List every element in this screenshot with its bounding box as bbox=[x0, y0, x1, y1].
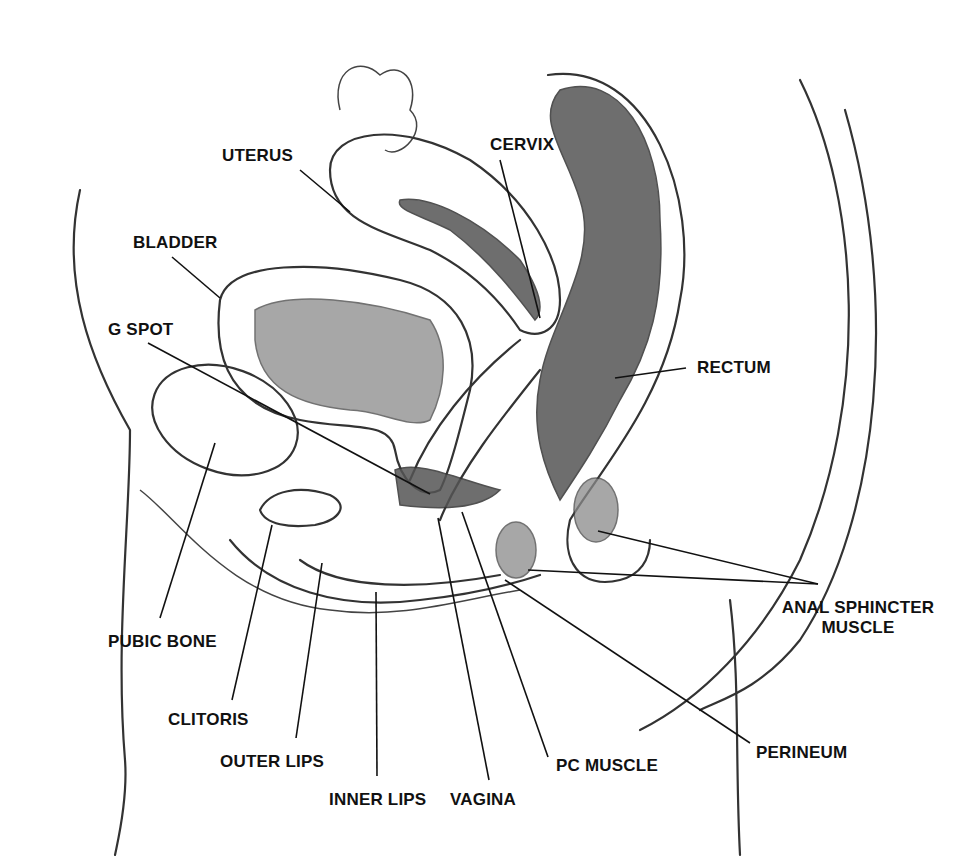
leader-line-uterus bbox=[300, 170, 350, 212]
leader-line-clitoris bbox=[232, 525, 272, 700]
label-bladder: BLADDER bbox=[133, 233, 218, 253]
label-uterus: UTERUS bbox=[222, 146, 293, 166]
clitoris-shape bbox=[260, 490, 341, 526]
ovary-tube bbox=[338, 66, 417, 152]
leader-line-pubic-bone bbox=[160, 443, 215, 618]
label-anal-sphincter: ANAL SPHINCTER MUSCLE bbox=[758, 598, 958, 638]
leader-line-anal-sphincter-muscle bbox=[528, 570, 818, 584]
thigh-back-outline bbox=[730, 600, 740, 855]
label-anal-sphincter-line1: ANAL SPHINCTER bbox=[758, 598, 958, 618]
label-pubic-bone: PUBIC BONE bbox=[108, 632, 217, 652]
anatomy-illustration bbox=[0, 0, 970, 859]
leader-line-bladder bbox=[172, 257, 220, 298]
label-pc-muscle: PC MUSCLE bbox=[556, 756, 658, 776]
label-vagina: VAGINA bbox=[450, 790, 516, 810]
label-rectum: RECTUM bbox=[697, 358, 771, 378]
bladder-interior bbox=[255, 299, 443, 423]
leader-line-vagina bbox=[438, 518, 489, 780]
label-outer-lips: OUTER LIPS bbox=[220, 752, 324, 772]
label-g-spot: G SPOT bbox=[108, 320, 173, 340]
uterine-cavity bbox=[399, 199, 540, 320]
label-anal-sphincter-line2: MUSCLE bbox=[758, 618, 958, 638]
label-perineum: PERINEUM bbox=[756, 743, 847, 763]
label-cervix: CERVIX bbox=[490, 135, 554, 155]
anatomy-diagram: UTERUS CERVIX BLADDER G SPOT RECTUM ANAL… bbox=[0, 0, 970, 859]
leader-line-perineum bbox=[505, 580, 750, 743]
label-inner-lips: INNER LIPS bbox=[329, 790, 426, 810]
anal-sphincter-right bbox=[574, 478, 618, 542]
abdomen-front-outline bbox=[74, 190, 130, 855]
outer-lips-shape bbox=[230, 540, 540, 603]
rectum-shape bbox=[537, 87, 661, 500]
label-clitoris: CLITORIS bbox=[168, 710, 249, 730]
leader-line-inner-lips bbox=[376, 592, 377, 776]
inner-lips-shape bbox=[300, 560, 500, 585]
